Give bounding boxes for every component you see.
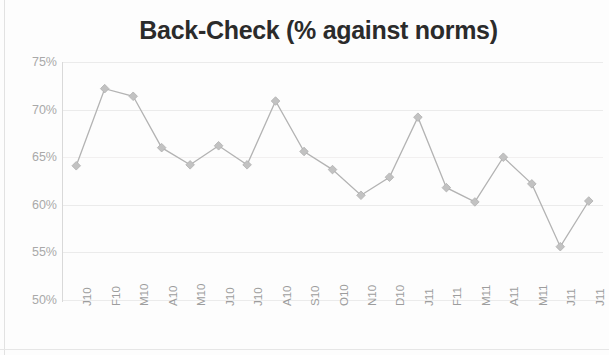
data-point-marker (129, 92, 138, 101)
y-axis-tick-label: 50% (13, 293, 57, 307)
x-axis-tick-label: J10 (239, 304, 255, 350)
data-point-marker (157, 143, 166, 152)
x-axis-labels: J10F10M10A10M10J10J10A10S10O10N10D10J11F… (62, 304, 603, 354)
x-axis-tick-label: A10 (268, 304, 284, 350)
x-axis-tick-text: J11 (423, 262, 435, 306)
data-point-marker (300, 147, 309, 156)
x-axis-tick-label: O10 (325, 304, 341, 350)
x-axis-tick-label: J11 (552, 304, 568, 350)
x-axis-tick-text: D10 (394, 262, 406, 306)
y-axis-tick-label: 75% (13, 55, 57, 69)
data-point-marker (442, 183, 451, 192)
x-axis-tick-label: A10 (154, 304, 170, 350)
x-axis-tick-text: J11 (594, 262, 606, 306)
x-axis-tick-label: J11 (410, 304, 426, 350)
x-axis-tick-label: J11 (581, 304, 597, 350)
data-point-marker (414, 113, 423, 122)
data-point-marker (471, 198, 480, 207)
x-axis-tick-text: A10 (167, 262, 179, 306)
y-axis-tick-label: 55% (13, 245, 57, 259)
x-axis-tick-text: J11 (565, 262, 577, 306)
x-axis-tick-label: M11 (524, 304, 540, 350)
data-point-marker (72, 161, 81, 170)
data-point-marker (385, 173, 394, 182)
x-axis-tick-label: N10 (353, 304, 369, 350)
x-axis-tick-text: F11 (451, 262, 463, 306)
data-point-marker (186, 161, 195, 170)
x-axis-tick-text: S10 (309, 262, 321, 306)
x-axis-tick-text: M10 (195, 262, 207, 306)
y-axis-tick-label: 70% (13, 103, 57, 117)
data-point-marker (100, 84, 109, 93)
data-point-marker (243, 161, 252, 170)
x-axis-tick-label: M11 (467, 304, 483, 350)
x-axis-tick-label: M10 (182, 304, 198, 350)
x-axis-tick-text: O10 (338, 262, 350, 306)
y-axis-tick-label: 65% (13, 150, 57, 164)
data-point-marker (214, 141, 223, 150)
x-axis-tick-label: A11 (495, 304, 511, 350)
x-axis-tick-label: M10 (125, 304, 141, 350)
x-axis-tick-text: M10 (138, 262, 150, 306)
x-axis-tick-text: J10 (252, 262, 264, 306)
x-axis-tick-text: A11 (508, 262, 520, 306)
chart-title: Back-Check (% against norms) (0, 16, 609, 45)
x-axis-tick-label: J10 (211, 304, 227, 350)
x-axis-tick-label: F10 (97, 304, 113, 350)
x-axis-tick-label: F11 (438, 304, 454, 350)
chart-container: Back-Check (% against norms) 75%70%65%60… (0, 0, 609, 355)
data-point-marker (584, 197, 593, 206)
x-axis-tick-text: M11 (537, 262, 549, 306)
page-edge-left (4, 0, 5, 355)
x-axis-tick-text: A10 (281, 262, 293, 306)
y-axis-tick-label: 60% (13, 198, 57, 212)
x-axis-tick-text: J10 (81, 262, 93, 306)
x-axis-tick-label: S10 (296, 304, 312, 350)
x-axis-tick-text: M11 (480, 262, 492, 306)
data-point-marker (556, 242, 565, 251)
x-axis-tick-label: J10 (68, 304, 84, 350)
x-axis-tick-text: J10 (224, 262, 236, 306)
data-point-marker (271, 97, 280, 106)
x-axis-tick-label: D10 (381, 304, 397, 350)
x-axis-tick-text: F10 (110, 262, 122, 306)
x-axis-tick-text: N10 (366, 262, 378, 306)
